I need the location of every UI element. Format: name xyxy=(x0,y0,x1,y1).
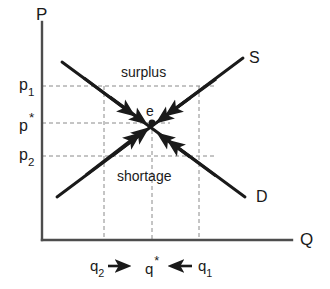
qty-label-qstar-asterisk: * xyxy=(154,253,159,268)
demand-curve-label: D xyxy=(256,189,268,205)
supply-arrow-lower-2 xyxy=(112,133,142,156)
y-axis-label: P xyxy=(36,6,47,23)
supply-demand-diagram: P Q S D p1 p* p2 surplus shortage e q2 q… xyxy=(0,0,330,289)
price-label-pstar: p* xyxy=(19,114,33,134)
qty-label-qstar: q* xyxy=(145,258,158,276)
qty-arrow-right xyxy=(107,259,131,273)
price-label-p1-base: p xyxy=(19,76,28,93)
price-label-pstar-base: p xyxy=(19,117,28,134)
demand-arrow-upper-2 xyxy=(110,97,140,119)
region-label-surplus: surplus xyxy=(121,65,166,79)
equilibrium-marker xyxy=(149,120,156,127)
demand-arrow-lower-2 xyxy=(164,138,190,157)
price-label-p2-base: p xyxy=(19,146,28,163)
supply-arrow-upper-2 xyxy=(163,98,190,118)
qty-label-q1-subscript: 1 xyxy=(206,267,212,279)
price-label-p1: p1 xyxy=(19,77,34,97)
price-label-p2: p2 xyxy=(19,147,34,167)
qty-label-qstar-base: q xyxy=(145,260,153,277)
qty-label-q2-subscript: 2 xyxy=(98,267,104,279)
price-label-p1-subscript: 1 xyxy=(28,86,34,98)
region-label-shortage: shortage xyxy=(117,169,171,183)
qty-label-q1: q1 xyxy=(198,258,212,277)
supply-curve-label: S xyxy=(249,50,260,66)
x-axis-label: Q xyxy=(300,231,313,248)
qty-arrow-left xyxy=(168,259,194,273)
equilibrium-label: e xyxy=(146,104,154,118)
diagram-canvas xyxy=(0,0,330,289)
price-label-p2-subscript: 2 xyxy=(28,156,34,168)
qty-label-q2: q2 xyxy=(90,258,104,277)
price-label-pstar-asterisk: * xyxy=(29,110,34,125)
